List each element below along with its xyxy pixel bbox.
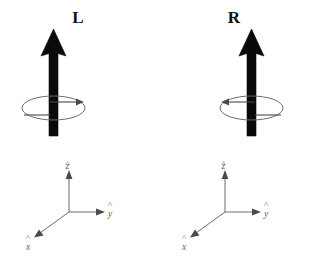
axis-y-label-right: y — [263, 209, 269, 219]
axis-z-label-right: z — [221, 161, 226, 171]
figure-panel-right: R ^ z ^ y ^ x — [156, 0, 312, 256]
axis-x-label-right: x — [181, 242, 187, 252]
spin-vector-diagram-right — [156, 26, 312, 144]
axis-x-arrowhead-right — [190, 230, 200, 238]
axis-z-arrowhead-right — [222, 170, 229, 179]
spin-vector-diagram-left — [0, 26, 156, 144]
axis-y-arrowhead-right — [252, 209, 261, 216]
coordinate-axes-left: ^ z ^ y ^ x — [0, 160, 156, 256]
axis-x-line-right — [196, 212, 225, 233]
axis-x-left: ^ x — [25, 212, 69, 252]
axis-y-right: ^ y — [225, 200, 269, 219]
axis-x-line-left — [40, 212, 69, 233]
axis-y-left: ^ y — [69, 200, 113, 219]
axis-x-label-left: x — [25, 242, 31, 252]
coordinate-axes-right: ^ z ^ y ^ x — [156, 160, 312, 256]
axis-x-arrowhead-left — [34, 230, 44, 238]
axis-z-left: ^ z — [65, 160, 73, 212]
axis-z-arrowhead-left — [66, 170, 73, 179]
rotation-arrow-head-left — [76, 99, 84, 106]
rotation-arrow-head-right — [221, 99, 229, 106]
axis-z-label-left: z — [65, 161, 70, 171]
polarization-label-right: R — [156, 8, 312, 28]
figure-panel-left: L ^ z ^ y — [0, 0, 156, 256]
axis-z-right: ^ z — [221, 160, 229, 212]
axis-y-label-left: y — [107, 209, 113, 219]
axis-x-right: ^ x — [181, 212, 225, 252]
axis-y-arrowhead-left — [96, 209, 105, 216]
